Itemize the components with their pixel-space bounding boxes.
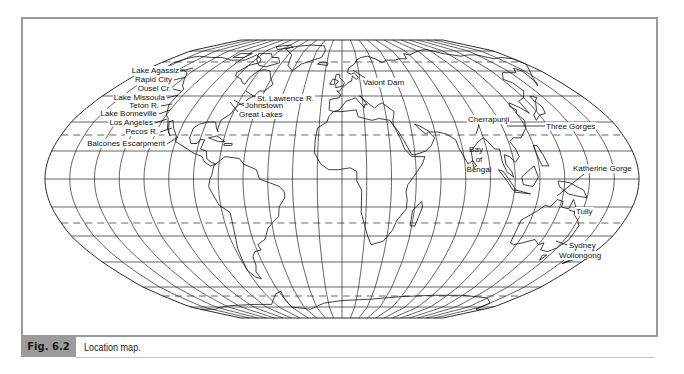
coastline-ireland bbox=[330, 79, 335, 84]
label-three-gorges: Three Gorges bbox=[545, 122, 596, 131]
coastline-japan bbox=[530, 96, 546, 120]
label-balcones-escarpment: Balcones Escarpment bbox=[86, 139, 166, 148]
label-lake-bonneville: Lake Bonneville bbox=[100, 109, 158, 118]
label-ousel-cr: Ousel Cr. bbox=[137, 84, 172, 93]
label-bay-of-bengal-line2: of bbox=[475, 155, 484, 164]
figure-caption: Location map. bbox=[84, 338, 141, 356]
label-tully: Tully bbox=[575, 207, 594, 216]
label-vaiont-dam: Vaiont Dam bbox=[362, 78, 405, 87]
coastline-philippines bbox=[534, 145, 549, 166]
coastline-great-britain bbox=[335, 74, 345, 87]
coastline-sumatra bbox=[498, 170, 516, 191]
label-pecos-r: Pecos R. bbox=[125, 127, 159, 136]
figure-number: Fig. 6.2 bbox=[21, 337, 76, 357]
coastline-hispaniola bbox=[224, 144, 232, 146]
label-katherine-gorge: Katherine Gorge bbox=[572, 164, 633, 173]
coastline-africa bbox=[315, 110, 425, 245]
label-bay-of-bengal-line3: Bengal bbox=[466, 165, 493, 174]
coastline-greenland bbox=[285, 45, 325, 71]
coastline-eurasia bbox=[329, 50, 538, 178]
coastline-south-america bbox=[209, 157, 285, 279]
coastline-tasmania bbox=[540, 255, 547, 260]
world-map bbox=[0, 0, 684, 374]
caption-divider bbox=[76, 357, 654, 358]
label-bay-of-bengal-line1: Bay bbox=[468, 145, 484, 154]
coastline-java bbox=[514, 190, 530, 194]
label-cherrapunji: Cherrapunji bbox=[467, 115, 510, 124]
label-johnstown: Johnstown bbox=[244, 101, 284, 110]
label-los-angeles: Los Angeles bbox=[108, 118, 154, 127]
label-lake-agassiz: Lake Agassiz bbox=[131, 66, 180, 75]
label-great-lakes: Great Lakes bbox=[238, 110, 284, 119]
label-rapid-city: Rapid City bbox=[134, 75, 173, 84]
label-wollongong: Wollongong bbox=[558, 251, 602, 260]
coastline-borneo bbox=[522, 166, 539, 187]
label-sydney: Sydney bbox=[568, 241, 597, 250]
coastline-cuba bbox=[209, 136, 225, 142]
